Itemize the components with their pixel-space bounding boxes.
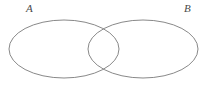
venn-diagram: A B	[0, 0, 208, 90]
set-a-label: A	[26, 3, 33, 14]
set-a-ellipse	[9, 20, 119, 78]
set-b-ellipse	[88, 20, 198, 78]
set-b-label: B	[184, 3, 191, 14]
